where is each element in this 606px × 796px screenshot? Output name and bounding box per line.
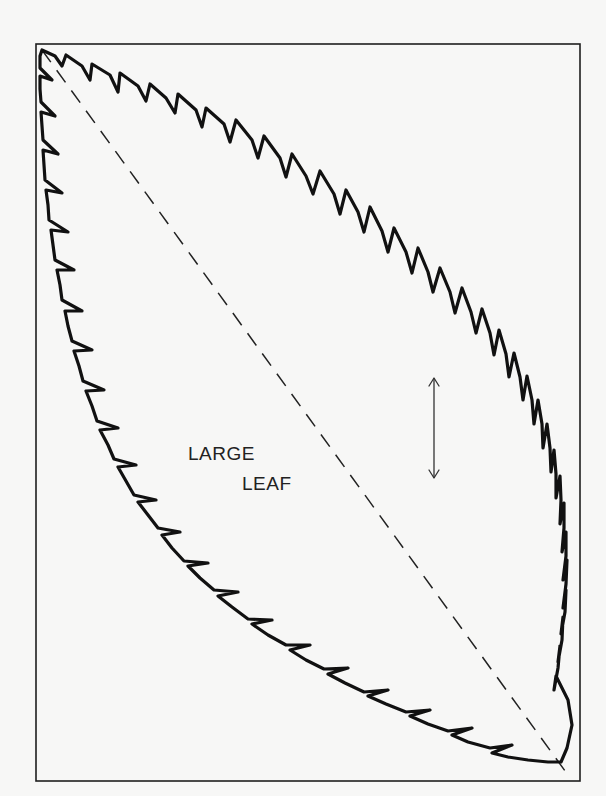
leaf-label-line1: LARGE xyxy=(188,444,255,463)
midrib-dashed-line xyxy=(42,50,568,775)
double-arrow-icon xyxy=(429,378,439,478)
leaf-diagram xyxy=(0,0,606,796)
leaf-label-line2: LEAF xyxy=(242,474,292,493)
